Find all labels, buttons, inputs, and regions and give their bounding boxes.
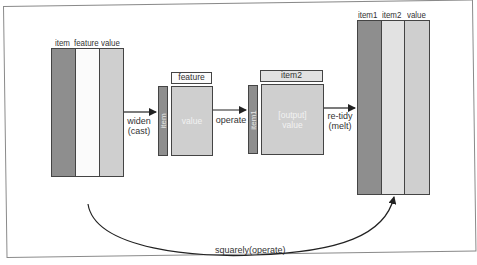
squarely-arrow <box>88 197 394 256</box>
arrows-layer <box>0 0 477 265</box>
